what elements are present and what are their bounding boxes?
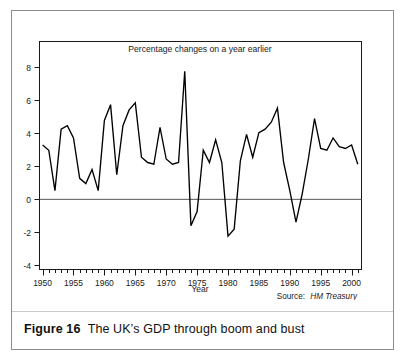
y-tick-label: 2 <box>26 162 31 172</box>
chart-plot-region: 8 6 4 2 0 -2 -4 195019551960196519701975… <box>0 0 405 300</box>
y-axis-ticks <box>35 68 40 266</box>
y-tick-label: 4 <box>26 129 31 139</box>
y-axis-tick-labels: 8 6 4 2 0 -2 -4 <box>23 63 31 271</box>
x-axis-ticks <box>44 270 359 276</box>
y-tick-label: -2 <box>23 228 31 238</box>
figure-caption-label: Figure 16 <box>24 322 80 336</box>
x-tick-label: 1950 <box>33 278 52 288</box>
x-tick-label: 1995 <box>311 278 330 288</box>
gdp-line-chart: 8 6 4 2 0 -2 -4 195019551960196519701975… <box>0 0 405 300</box>
caption-divider <box>12 311 393 312</box>
source-name: HM Treasury <box>310 292 358 300</box>
x-tick-label: 2000 <box>342 278 361 288</box>
x-tick-label: 1980 <box>219 278 238 288</box>
x-tick-label: 1960 <box>95 278 114 288</box>
source-note: Source: HM Treasury <box>277 292 358 300</box>
figure-caption: Figure 16 The UK’s GDP through boom and … <box>24 322 374 336</box>
y-tick-label: 6 <box>26 96 31 106</box>
y-tick-label: 8 <box>26 63 31 73</box>
x-tick-label: 1990 <box>280 278 299 288</box>
figure-caption-text: The UK’s GDP through boom and bust <box>88 322 305 336</box>
x-tick-label: 1955 <box>64 278 83 288</box>
y-tick-label: 0 <box>26 195 31 205</box>
y-tick-label: -4 <box>23 261 31 271</box>
x-tick-label: 1970 <box>157 278 176 288</box>
x-tick-label: 1985 <box>249 278 268 288</box>
figure-container: 8 6 4 2 0 -2 -4 195019551960196519701975… <box>0 0 405 360</box>
x-axis-label: Year <box>191 284 208 294</box>
source-prefix: Source: <box>277 292 305 300</box>
chart-title: Percentage changes on a year earlier <box>128 44 271 54</box>
plot-frame <box>40 42 362 270</box>
x-tick-label: 1965 <box>126 278 145 288</box>
